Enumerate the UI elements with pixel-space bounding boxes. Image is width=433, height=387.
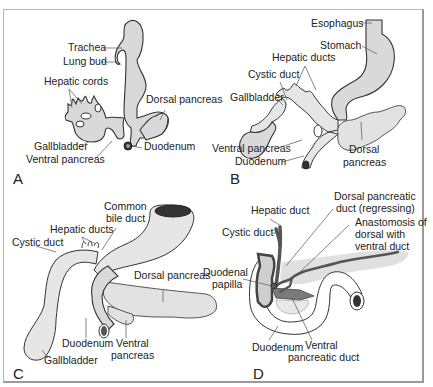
label-common: Common [104, 200, 147, 212]
label-hepatic-ducts: Hepatic ducts [272, 51, 336, 63]
label-ventral-d: Ventral [305, 339, 338, 351]
label-duct-regressing: duct (regressing) [336, 202, 415, 214]
panel-letter-d: D [253, 365, 264, 382]
panel-letter-b: B [230, 170, 240, 187]
label-pancreas-c: pancreas [111, 349, 154, 361]
label-duodenum-c: Duodenum [62, 337, 114, 349]
panel-c-stomach-lumen [155, 205, 191, 217]
panel-a-cord-gap [95, 104, 101, 112]
label-cystic-duct-d: Cystic duct [222, 226, 273, 238]
label-duodenal: Duodenal [203, 266, 248, 278]
panel-d-ventral-tissue [276, 300, 308, 314]
panel-c: Common bile duct Hepatic ducts Cystic du… [12, 200, 217, 382]
label-dorsal-with: dorsal with [355, 228, 405, 240]
label-trachea: Trachea [68, 41, 106, 53]
panel-a-cord-gap [76, 121, 84, 127]
label-hepatic-cords: Hepatic cords [44, 75, 108, 87]
label-dorsal-pancreas-c: Dorsal pancreas [134, 269, 210, 281]
panel-b-stomach [331, 20, 394, 120]
label-gallbladder-c: Gallbladder [44, 354, 98, 366]
panel-d-ventral-pancreas [272, 288, 314, 300]
label-pancreatic-duct: pancreatic duct [288, 351, 359, 363]
label-ventral-pancreas-b: Ventral pancreas [212, 142, 291, 154]
label-stomach: Stomach [320, 39, 362, 51]
label-anastomosis-of: Anastomosis of [355, 216, 427, 228]
panel-a-cord-gap [81, 113, 91, 119]
panel-a: Trachea Lung bud Hepatic cords Dorsal pa… [13, 21, 222, 188]
label-dorsal-pancreas: Dorsal pancreas [146, 93, 222, 105]
panel-d: Hepatic duct Dorsal pancreatic duct (reg… [203, 190, 427, 382]
label-papilla: papilla [212, 278, 243, 290]
leader-line [132, 146, 142, 148]
label-dorsal-pancreatic: Dorsal pancreatic [334, 190, 416, 202]
label-cystic-duct: Cystic duct [248, 68, 299, 80]
label-ventral-pancreas: Ventral pancreas [26, 153, 105, 165]
label-ventral-duct: ventral duct [355, 240, 409, 252]
panel-b-duct-gap [314, 125, 322, 137]
panel-a-liver-bud [65, 96, 124, 142]
label-duodenum: Duodenum [144, 140, 196, 152]
leader-line [270, 219, 281, 226]
label-hepatic-ducts-c: Hepatic ducts [50, 223, 114, 235]
panel-d-duodenal-wall [257, 254, 275, 307]
label-cystic-duct-c: Cystic duct [12, 236, 63, 248]
label-duodenum-b: Duodenum [235, 155, 287, 167]
panel-letter-a: A [13, 170, 23, 187]
label-gallbladder: Gallbladder [34, 140, 88, 152]
leader-line [305, 66, 316, 90]
label-ventral-c: Ventral [116, 337, 149, 349]
panel-b-duodenum-lumen [303, 161, 309, 169]
panel-b: Esophagus Stomach Hepatic ducts Cystic d… [212, 17, 406, 187]
label-esophagus: Esophagus [311, 17, 364, 29]
label-gallbladder-b: Gallbladder [230, 91, 284, 103]
panel-c-hepatic-ducts [82, 242, 99, 249]
embryology-figure: Trachea Lung bud Hepatic cords Dorsal pa… [0, 0, 433, 387]
leader-line [82, 237, 96, 244]
panel-d-duodenum-lumen-inner [353, 295, 361, 307]
panel-letter-c: C [13, 365, 24, 382]
label-hepatic-duct-d: Hepatic duct [251, 204, 309, 216]
label-pancreas-b: pancreas [343, 156, 386, 168]
label-lung-bud: Lung bud [63, 55, 107, 67]
panel-a-duodenum-lumen-inner [126, 144, 130, 148]
panel-c-duodenum-lumen-inner [101, 326, 107, 336]
label-dorsal-b: Dorsal [349, 143, 379, 155]
